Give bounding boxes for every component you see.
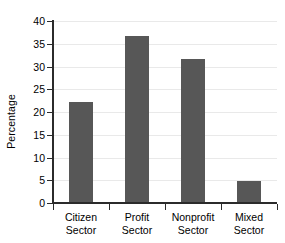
gridline [53, 89, 277, 90]
y-tick-label: 5 [18, 174, 45, 186]
bar [181, 59, 205, 203]
category-label: NonprofitSector [165, 211, 221, 237]
category-label-line: Profit [109, 211, 165, 224]
y-tick-label: 0 [18, 197, 45, 209]
gridline [53, 67, 277, 68]
y-tick-label: 30 [18, 61, 45, 73]
x-tick-mark [277, 204, 278, 210]
category-label-line: Sector [109, 224, 165, 237]
y-tick-mark [47, 21, 52, 22]
bar [69, 102, 93, 203]
y-tick-mark [47, 135, 52, 136]
y-tick-mark [47, 44, 52, 45]
y-tick-mark [47, 112, 52, 113]
y-tick-mark [47, 180, 52, 181]
y-tick-label: 10 [18, 152, 45, 164]
y-tick-label: 25 [18, 83, 45, 95]
y-tick-label: 40 [18, 15, 45, 27]
y-tick-label: 15 [18, 129, 45, 141]
x-tick-mark [109, 204, 110, 210]
y-tick-label: 35 [18, 38, 45, 50]
x-tick-mark [53, 204, 54, 210]
category-label-line: Nonprofit [165, 211, 221, 224]
y-axis-line [52, 20, 54, 204]
category-label-line: Sector [53, 224, 109, 237]
gridline [53, 44, 277, 45]
bar-chart: Percentage 0510152025303540 CitizenSecto… [0, 0, 285, 243]
bar [237, 181, 261, 203]
category-label-line: Citizen [53, 211, 109, 224]
plot-area [53, 21, 277, 203]
x-tick-mark [165, 204, 166, 210]
category-label: MixedSector [221, 211, 277, 237]
y-tick-mark [47, 89, 52, 90]
y-tick-mark [47, 67, 52, 68]
category-label: CitizenSector [53, 211, 109, 237]
y-tick-mark [47, 158, 52, 159]
category-label-line: Mixed [221, 211, 277, 224]
category-label: ProfitSector [109, 211, 165, 237]
x-tick-mark [221, 204, 222, 210]
y-tick-label: 20 [18, 106, 45, 118]
category-label-line: Sector [165, 224, 221, 237]
bar [125, 36, 149, 203]
gridline [53, 21, 277, 22]
category-label-line: Sector [221, 224, 277, 237]
y-tick-mark [47, 203, 52, 204]
